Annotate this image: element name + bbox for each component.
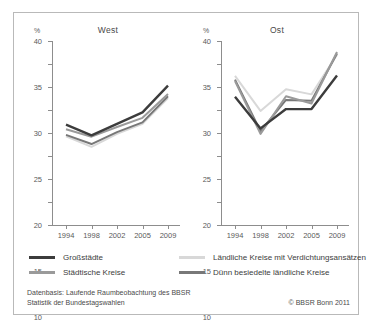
legend-item-duenn-besiedelte: Dünn besiedelte ländliche Kreise [179,268,330,277]
legend-swatch-duenn-besiedelte [179,271,205,274]
legend-label-duenn-besiedelte: Dünn besiedelte ländliche Kreise [213,268,330,277]
y-tick: 20 [217,133,221,134]
legend-label-staedtische-kreise: Städtische Kreise [63,268,125,277]
x-tick [261,225,262,229]
plot-area-west: 051015202530354019941998200220052009 [52,41,180,225]
footer-source-line-1: Datenbasis: Laufende Raumbeobachtung des… [27,288,352,298]
x-tick [92,225,93,229]
x-tick-label: 2009 [160,231,177,240]
x-tick [66,225,67,229]
y-tick-label: 35 [203,83,211,92]
x-tick [168,225,169,229]
x-axis-ost [221,225,349,226]
x-tick [337,225,338,229]
y-tick-label: 35 [34,83,42,92]
x-tick-label: 1998 [252,231,269,240]
y-tick: 20 [48,133,52,134]
x-tick-label: 1994 [227,231,244,240]
y-tick-label: 30 [203,129,211,138]
x-tick-label: 1994 [58,231,75,240]
chart-figure: West % 051015202530354019941998200220052… [13,12,359,315]
y-tick: 5 [217,202,221,203]
x-tick-label: 2009 [329,231,346,240]
y-axis-unit-west: % [34,27,40,34]
legend-item-staedtische-kreise: Städtische Kreise [29,268,125,277]
legend-swatch-staedtische-kreise [29,271,55,274]
series-line [66,96,168,144]
y-tick: 5 [48,202,52,203]
y-tick: 25 [217,110,221,111]
panel-title-ost: Ost [191,25,363,35]
series-lines-ost [221,41,349,225]
plot-area-ost: 051015202530354019941998200220052009 [221,41,349,225]
y-tick-label: 10 [203,313,211,322]
x-tick-label: 2002 [278,231,295,240]
x-tick-label: 2002 [109,231,126,240]
footer-copyright: © BBSR Bonn 2011 [289,298,350,308]
y-tick-label: 40 [34,37,42,46]
legend-swatch-grossstaedte [29,256,55,259]
y-tick: 0 [217,225,221,226]
y-tick: 15 [48,156,52,157]
y-tick-label: 30 [34,129,42,138]
chart-legend: Großstädte Städtische Kreise Ländliche K… [27,253,352,283]
y-tick-label: 25 [34,175,42,184]
y-tick: 10 [217,179,221,180]
x-tick [117,225,118,229]
legend-item-laendliche-kreise-verdichtung: Ländliche Kreise mit Verdichtungsansätze… [179,253,366,262]
x-axis-west [52,225,180,226]
x-tick-label: 1998 [83,231,100,240]
legend-label-laendliche-kreise-verdichtung: Ländliche Kreise mit Verdichtungsansätze… [213,253,366,262]
y-tick: 30 [217,87,221,88]
y-tick: 40 [48,41,52,42]
y-tick: 40 [217,41,221,42]
x-tick-label: 2005 [134,231,151,240]
x-tick [286,225,287,229]
y-tick-label: 20 [203,221,211,230]
y-tick-label: 20 [34,221,42,230]
y-tick: 30 [48,87,52,88]
x-tick [235,225,236,229]
y-tick: 35 [48,64,52,65]
y-tick-label: 25 [203,175,211,184]
y-tick: 0 [48,225,52,226]
chart-footer: Datenbasis: Laufende Raumbeobachtung des… [27,288,352,308]
y-tick: 15 [217,156,221,157]
panel-title-west: West [22,25,194,35]
legend-swatch-laendliche-kreise-verdichtung [179,256,205,259]
x-tick [312,225,313,229]
series-line [235,52,337,134]
x-tick-label: 2005 [303,231,320,240]
y-tick: 25 [48,110,52,111]
series-line [235,53,337,131]
y-tick-label: 40 [203,37,211,46]
legend-item-grossstaedte: Großstädte [29,253,103,262]
x-tick [143,225,144,229]
legend-label-grossstaedte: Großstädte [63,253,103,262]
y-tick: 10 [48,179,52,180]
y-tick-label: 10 [34,313,42,322]
series-lines-west [52,41,180,225]
y-tick: 35 [217,64,221,65]
y-axis-unit-ost: % [203,27,209,34]
